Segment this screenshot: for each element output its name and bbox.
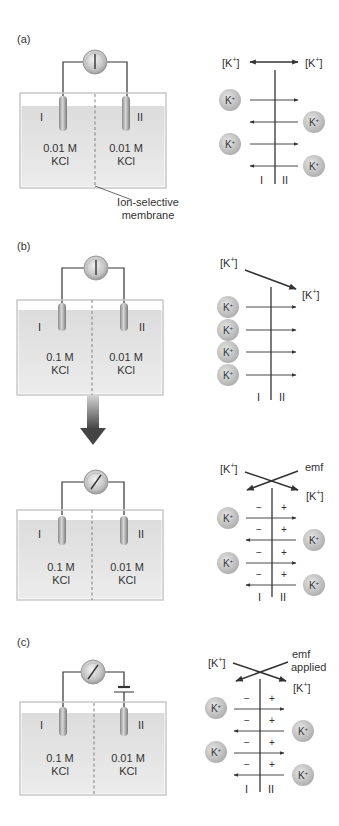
compartment-label-II: II xyxy=(138,529,144,540)
plus-sign: + xyxy=(281,525,287,535)
k-ion: K+ xyxy=(219,133,241,155)
k-ion: K+ xyxy=(205,697,227,719)
panel-b-schematic xyxy=(245,270,296,400)
solution-right: 0.01 M KCl xyxy=(109,351,143,377)
k-ion: K+ xyxy=(217,364,239,386)
compartment-label-II: II xyxy=(138,720,144,731)
panel-a-schematic xyxy=(250,62,298,184)
k-ion: K+ xyxy=(217,341,239,363)
k-conc-left: [K+] xyxy=(220,462,238,475)
concentration-label: 0.01 M xyxy=(111,752,145,765)
transition-arrow-icon xyxy=(80,396,106,445)
k-conc-left: [K+] xyxy=(208,656,226,669)
concentration-label: 0.1 M xyxy=(47,561,75,574)
compartment-label-I: I xyxy=(38,529,41,540)
salt-label: KCl xyxy=(109,364,143,377)
applied-label: applied xyxy=(291,661,326,674)
k-ion: K+ xyxy=(217,507,239,529)
compartment-label-I: I xyxy=(40,112,43,123)
solution-left: 0.01 M KCl xyxy=(43,142,77,168)
k-conc-left: [K+] xyxy=(220,256,238,269)
emf-applied-label: emf applied xyxy=(291,648,326,674)
emf-label: emf xyxy=(291,648,326,661)
k-conc-right: [K+] xyxy=(305,56,323,69)
side-label-II: II xyxy=(279,392,285,403)
figure: (a) I II 0.01 M KCl 0.01 M KCl Ion-selec… xyxy=(0,0,339,826)
plus-sign: + xyxy=(269,694,275,704)
plus-sign: + xyxy=(269,716,275,726)
k-ion: K+ xyxy=(303,111,325,133)
minus-sign: − xyxy=(256,570,262,580)
plus-sign: + xyxy=(269,738,275,748)
panel-letter-a: (a) xyxy=(17,33,30,45)
salt-label: KCl xyxy=(111,765,145,778)
k-ion: K+ xyxy=(292,720,314,742)
solution-left: 0.1 M KCl xyxy=(47,561,75,587)
minus-sign: − xyxy=(256,525,262,535)
plus-sign: + xyxy=(281,570,287,580)
side-label-I: I xyxy=(257,392,260,403)
k-conc-left: [K+] xyxy=(222,56,240,69)
k-conc-right: [K+] xyxy=(306,489,324,502)
salt-label: KCl xyxy=(43,155,77,168)
minus-sign: − xyxy=(244,738,250,748)
k-ion: K+ xyxy=(303,529,325,551)
salt-label: KCl xyxy=(109,155,143,168)
concentration-label: 0.01 M xyxy=(109,351,143,364)
solution-right: 0.01 M KCl xyxy=(111,752,145,778)
k-ion: K+ xyxy=(217,319,239,341)
k-ion: K+ xyxy=(303,574,325,596)
k-conc-right: [K+] xyxy=(302,288,320,301)
concentration-label: 0.1 M xyxy=(46,351,74,364)
diagram-graphics xyxy=(0,0,339,826)
panel-c-schematic xyxy=(233,662,288,792)
concentration-label: 0.01 M xyxy=(110,561,144,574)
emf-label: emf xyxy=(305,462,323,473)
solution-right: 0.01 M KCl xyxy=(110,561,144,587)
minus-sign: − xyxy=(244,760,250,770)
salt-label: KCl xyxy=(46,364,74,377)
plus-sign: + xyxy=(281,548,287,558)
minus-sign: − xyxy=(256,548,262,558)
membrane-callout: Ion-selective membrane xyxy=(117,196,179,222)
k-conc-right: [K+] xyxy=(293,681,311,694)
concentration-label: 0.01 M xyxy=(43,142,77,155)
salt-label: KCl xyxy=(46,765,74,778)
side-label-II: II xyxy=(282,175,288,186)
k-ion: K+ xyxy=(217,296,239,318)
compartment-label-I: I xyxy=(38,322,41,333)
side-label-I: I xyxy=(245,784,248,795)
plus-sign: + xyxy=(269,760,275,770)
solution-right: 0.01 M KCl xyxy=(109,142,143,168)
compartment-label-II: II xyxy=(139,322,145,333)
plus-sign: + xyxy=(281,503,287,513)
panel-b2-schematic xyxy=(245,471,298,597)
k-ion: K+ xyxy=(292,764,314,786)
solution-left: 0.1 M KCl xyxy=(46,752,74,778)
side-label-II: II xyxy=(268,784,274,795)
salt-label: KCl xyxy=(110,574,144,587)
minus-sign: − xyxy=(256,503,262,513)
k-ion: K+ xyxy=(205,741,227,763)
minus-sign: − xyxy=(244,694,250,704)
side-label-I: I xyxy=(260,175,263,186)
side-label-I: I xyxy=(258,592,261,603)
k-ion: K+ xyxy=(303,155,325,177)
panel-letter-b: (b) xyxy=(17,240,30,252)
panel-letter-c: (c) xyxy=(17,636,30,648)
concentration-label: 0.1 M xyxy=(46,752,74,765)
compartment-label-II: II xyxy=(137,112,143,123)
k-ion: K+ xyxy=(217,552,239,574)
minus-sign: − xyxy=(244,716,250,726)
compartment-label-I: I xyxy=(40,720,43,731)
callout-line2: membrane xyxy=(117,209,179,222)
panel-a-apparatus xyxy=(20,50,166,200)
battery-icon xyxy=(114,687,134,692)
callout-line1: Ion-selective xyxy=(117,196,179,209)
side-label-II: II xyxy=(280,592,286,603)
solution-left: 0.1 M KCl xyxy=(46,351,74,377)
k-ion: K+ xyxy=(219,89,241,111)
concentration-label: 0.01 M xyxy=(109,142,143,155)
salt-label: KCl xyxy=(47,574,75,587)
